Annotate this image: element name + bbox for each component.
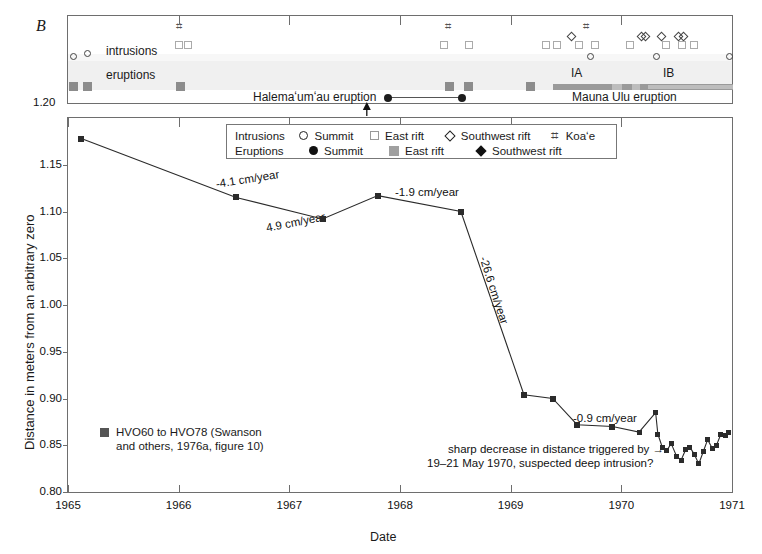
data-point-marker (574, 422, 580, 428)
x-tick-mark (732, 118, 733, 127)
legend-item-label: Koaʻe (566, 130, 595, 142)
top-panel-tick (621, 16, 622, 25)
phase-label-ib: IB (663, 66, 674, 80)
annotation-note-line2: 19–21 May 1970, suspected deep intrusion… (427, 457, 653, 469)
eruption-east-rift-marker (445, 82, 454, 91)
y-tick-mark (63, 399, 68, 400)
y-tick-label: 0.80 (30, 485, 62, 497)
data-point-marker (550, 396, 556, 402)
data-point-marker (375, 193, 381, 199)
data-point-marker (726, 430, 731, 435)
halemaumau-end-dot (458, 94, 466, 102)
y-tick-mark (63, 165, 68, 166)
intrusion-summit-marker (726, 53, 733, 60)
intrusions-row-label: intrusions (106, 44, 157, 58)
y-tick-label: 1.00 (30, 298, 62, 310)
eruption-east-rift-marker (526, 82, 535, 91)
panel-label-b: B (36, 17, 46, 35)
series-source-legend: HVO60 to HVO78 (Swanson and others, 1976… (100, 425, 264, 453)
top-panel-tick (511, 16, 512, 25)
intrusion-summit-marker (70, 53, 77, 60)
legend-item-label: Southwest rift (461, 130, 531, 142)
legend-item: Summit (296, 130, 358, 142)
legend-item: Southwest rift (443, 130, 539, 142)
intrusion-east-rift-marker (542, 41, 550, 49)
halemaumau-eruption-label: Halemaʻumʻau eruption (253, 90, 376, 104)
intrusion-east-rift-marker (662, 41, 670, 49)
legend-item: ⌗Koaʻe (548, 130, 599, 142)
x-tick-label: 1966 (161, 499, 197, 511)
y-tick-mark (63, 352, 68, 353)
mauna-ulu-eruption-label: Mauna Ulu eruption (572, 90, 677, 104)
x-tick-mark (68, 118, 69, 127)
x-tick-mark (621, 118, 622, 127)
intrusion-east-rift-marker (465, 41, 473, 49)
legend-row-label: Eruptions (235, 145, 301, 157)
intrusion-east-rift-marker (553, 41, 561, 49)
legend-item-label: Summit (314, 130, 353, 142)
data-point-marker (714, 443, 719, 448)
eruptions-row-label: eruptions (106, 68, 155, 82)
data-point-marker (705, 437, 710, 442)
koae-hash-icon: ⌗ (548, 130, 562, 141)
y-axis-title: Distance in meters from an arbitrary zer… (22, 214, 37, 450)
phase-label-ia: IA (571, 66, 582, 80)
x-tick-mark-bottom (68, 485, 69, 492)
x-tick-mark-bottom (289, 485, 290, 492)
figure-root: B 1.20 intrusions eruptions IA IB Mauna … (0, 0, 762, 554)
intrusion-koae-marker: ⌗ (445, 21, 451, 32)
open-circle-icon (296, 131, 310, 140)
eruption-east-rift-marker (69, 82, 78, 91)
legend-item: East rift (367, 130, 434, 142)
x-tick-label: 1970 (603, 499, 639, 511)
x-tick-label: 1971 (714, 499, 750, 511)
x-axis-title: Date (370, 530, 396, 544)
data-point-marker (687, 445, 692, 450)
intrusions-key-circle-icon (84, 50, 91, 57)
y-tick-mark (63, 212, 68, 213)
data-point-marker (696, 461, 701, 466)
x-tick-mark-bottom (732, 485, 733, 492)
data-point-marker (609, 424, 615, 430)
intrusion-east-rift-marker (690, 41, 698, 49)
data-point-marker (78, 136, 84, 142)
annotation-note-line1: sharp decrease in distance triggered by … (448, 443, 664, 455)
legend-item-label: Southwest rift (492, 145, 562, 157)
filled-circle-icon (306, 146, 320, 155)
series-legend-text: HVO60 to HVO78 (Swanson and others, 1976… (116, 425, 264, 453)
legend-item-label: East rift (405, 145, 444, 157)
y-tick-mark (63, 445, 68, 446)
open-square-icon (367, 131, 381, 140)
y-tick-mark (63, 258, 68, 259)
intrusion-east-rift-marker (440, 41, 448, 49)
eruption-east-rift-marker (464, 82, 473, 91)
data-point-marker (679, 458, 684, 463)
legend-item: Southwest rift (474, 145, 586, 157)
y-tick-label: 0.85 (30, 438, 62, 450)
x-tick-mark-bottom (179, 485, 180, 492)
x-tick-mark-bottom (511, 485, 512, 492)
x-tick-label: 1965 (50, 499, 86, 511)
x-tick-label: 1968 (382, 499, 418, 511)
mauna-ulu-tail (648, 85, 733, 89)
y-tick-mark (63, 492, 68, 493)
series-legend-line1: HVO60 to HVO78 (Swanson (116, 426, 262, 438)
legend-item-label: Summit (324, 145, 363, 157)
intrusion-east-rift-marker (575, 41, 583, 49)
filled-diamond-icon (474, 147, 488, 155)
intrusion-east-rift-marker (175, 41, 183, 49)
x-tick-mark (179, 118, 180, 127)
x-tick-mark-bottom (400, 485, 401, 492)
intrusion-summit-marker (653, 53, 660, 60)
data-point-marker (637, 430, 642, 435)
data-point-marker (664, 448, 669, 453)
legend-row: IntrusionsSummitEast riftSouthwest rift⌗… (235, 128, 608, 143)
eruption-band-upper-fade (68, 54, 732, 61)
y-tick-label: 1.10 (30, 205, 62, 217)
y-tick-label: 0.90 (30, 392, 62, 404)
data-point-marker (692, 452, 697, 457)
data-point-marker (655, 432, 660, 437)
halemaumau-duration-line (388, 97, 463, 98)
eruption-east-rift-marker (176, 82, 185, 91)
top-panel-tick (179, 16, 180, 25)
